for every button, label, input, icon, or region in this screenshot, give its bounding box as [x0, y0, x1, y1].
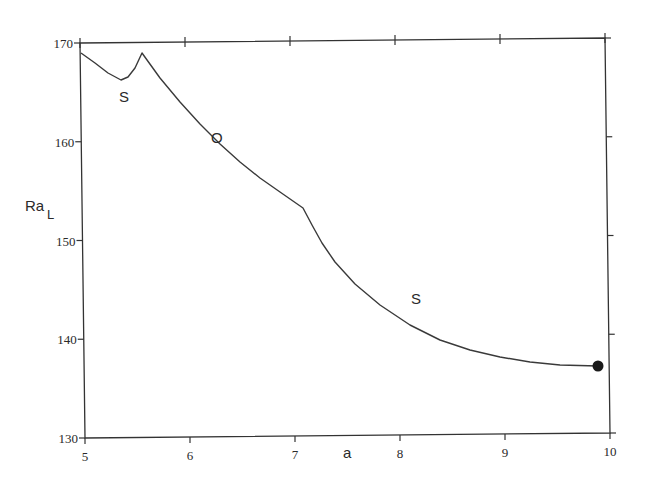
right-axis-ticks — [605, 38, 616, 433]
y-tick-label: 140 — [57, 332, 77, 347]
data-curve — [81, 53, 598, 366]
x-tick-label: 9 — [502, 445, 509, 460]
annotation-o: O — [211, 129, 223, 146]
axes-box — [80, 38, 610, 438]
x-tick-label: 7 — [292, 447, 299, 462]
y-tick-label: 160 — [55, 135, 75, 150]
y-tick-label: 170 — [54, 36, 74, 51]
x-tick-label: 8 — [397, 446, 404, 461]
endpoint-marker — [593, 361, 604, 372]
x-tick-label: 10 — [604, 444, 617, 459]
x-axis-label: a — [343, 444, 352, 461]
y-axis-title: Ra L — [25, 197, 54, 222]
plot-frame — [80, 38, 610, 438]
annotation-s-left: S — [119, 88, 129, 105]
y-axis-label: Ra — [25, 197, 45, 214]
y-axis-label-subscript: L — [47, 207, 54, 222]
line-chart: 130140150160170 5678910 Ra L a S O S — [0, 0, 650, 487]
y-tick-label: 130 — [59, 431, 79, 446]
x-tick-label: 6 — [187, 448, 194, 463]
y-tick-label: 150 — [56, 234, 76, 249]
annotation-s-right: S — [411, 290, 421, 307]
x-tick-label: 5 — [82, 449, 89, 464]
